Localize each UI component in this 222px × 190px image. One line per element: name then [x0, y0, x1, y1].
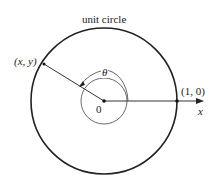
x-axis-label: x — [198, 106, 203, 117]
intercept-label: (1, 0) — [181, 86, 205, 97]
origin-point — [102, 99, 106, 103]
x-axis-arrow-icon — [196, 98, 204, 104]
intercept-point — [175, 99, 179, 103]
xy-point — [43, 63, 46, 66]
angle-arrow-icon — [79, 81, 85, 87]
origin-label: 0 — [96, 104, 102, 115]
diagram-title: unit circle — [82, 14, 126, 25]
radius-line — [44, 64, 104, 101]
point-xy-label: (x, y) — [14, 56, 37, 67]
theta-label: θ — [101, 67, 108, 78]
